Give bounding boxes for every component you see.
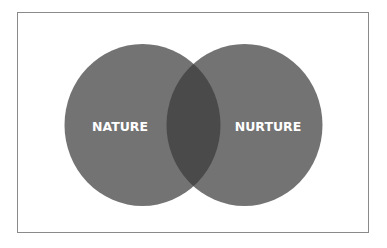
nurture-label: NURTURE <box>235 120 302 134</box>
venn-diagram <box>0 0 387 248</box>
nature-label: NATURE <box>92 120 148 134</box>
